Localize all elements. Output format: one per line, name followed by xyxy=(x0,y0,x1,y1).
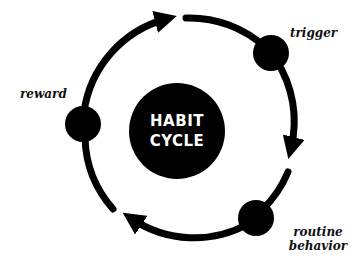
center-label-line1: HABIT xyxy=(150,112,204,130)
arc-routine-to-reward xyxy=(132,219,248,238)
label-routine-line1: routine xyxy=(293,225,343,239)
label-trigger: trigger xyxy=(290,26,339,40)
habit-cycle-diagram: HABIT CYCLE trigger routine behavior rew… xyxy=(0,0,357,263)
arc-trigger-to-routine xyxy=(276,60,294,148)
center-circle xyxy=(129,83,225,179)
label-routine-line2: behavior xyxy=(289,239,349,253)
arc-into-reward xyxy=(85,138,113,209)
arc-into-trigger xyxy=(186,18,266,48)
node-routine xyxy=(238,200,274,236)
node-trigger xyxy=(253,35,289,71)
center-label-line2: CYCLE xyxy=(150,132,205,150)
label-reward: reward xyxy=(20,87,67,101)
node-reward xyxy=(65,106,101,142)
